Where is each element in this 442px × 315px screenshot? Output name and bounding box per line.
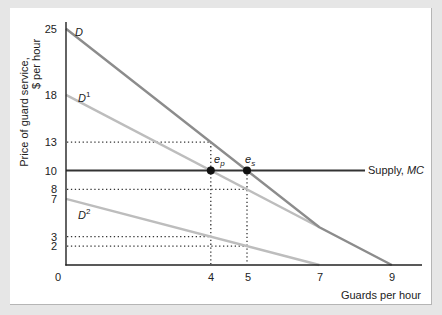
demand-supply-chart: ep es D D1 D2 Supply, MC 25 18 13 10 8 7… (0, 0, 442, 315)
demand-curve-d1 (66, 95, 319, 227)
y-tick-labels: 25 18 13 10 8 7 3 2 (45, 23, 57, 252)
y-tick-25: 25 (45, 23, 57, 35)
label-d2: D2 (78, 207, 91, 221)
y-tick-7: 7 (51, 193, 57, 205)
y-tick-13: 13 (45, 136, 57, 148)
y-axis-title-line1: Price of guard service, (18, 57, 30, 166)
label-es: es (245, 153, 255, 168)
x-tick-0: 0 (55, 271, 61, 283)
equilibrium-point-es (243, 167, 251, 175)
equilibrium-point-ep (207, 167, 215, 175)
y-tick-10: 10 (45, 165, 57, 177)
x-tick-5: 5 (245, 271, 251, 283)
x-tick-9: 9 (389, 271, 395, 283)
label-d1: D1 (78, 90, 91, 104)
label-ep: ep (214, 153, 225, 168)
x-tick-7: 7 (317, 271, 323, 283)
x-axis-title: Guards per hour (341, 289, 421, 301)
y-axis-title: Price of guard service, $ per hour (18, 39, 42, 167)
y-tick-2: 2 (51, 240, 57, 252)
demand-curve-d2 (66, 199, 319, 265)
label-supply: Supply, MC (368, 164, 424, 176)
demand-curve-d (66, 29, 392, 265)
x-tick-labels: 0 4 5 7 9 (55, 271, 395, 283)
label-d: D (75, 26, 83, 38)
y-axis-title-line2: $ per hour (30, 39, 42, 89)
y-tick-18: 18 (45, 89, 57, 101)
x-tick-4: 4 (208, 271, 214, 283)
